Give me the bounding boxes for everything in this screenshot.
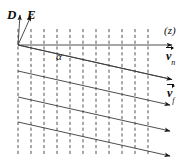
velocity-ray-label: vf [167, 87, 189, 102]
ray-line [18, 71, 170, 105]
axis-z-label: (z) [164, 25, 176, 36]
ray-family-vf [18, 45, 172, 156]
velocity-normal-label: vn [166, 50, 189, 65]
angle-alpha-label: α [56, 51, 62, 62]
wave-vector-diagram: D E α (z) vn vf [0, 0, 189, 159]
vector-overbar-arrow-icon [166, 47, 173, 48]
velocity-normal-subscript: n [171, 58, 175, 67]
velocity-ray-subscript: f [172, 96, 174, 105]
diagram-canvas [0, 0, 189, 159]
ray-line-first [18, 45, 172, 80]
vector-overbar-arrow-icon [167, 84, 174, 85]
ray-line [18, 97, 170, 131]
vector-D-label: D [7, 8, 16, 21]
ray-line [18, 122, 170, 156]
vector-E-label: E [27, 8, 36, 21]
